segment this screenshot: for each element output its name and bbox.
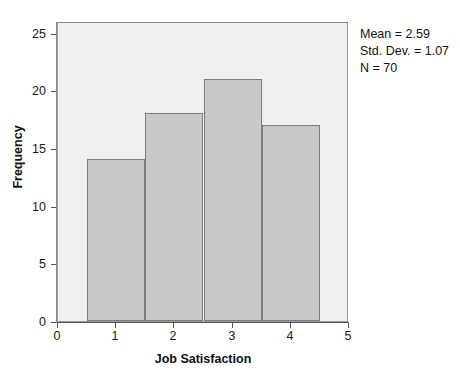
histogram-bar <box>262 125 320 321</box>
x-axis-tick <box>348 323 349 328</box>
x-axis-tick-label: 5 <box>333 330 363 343</box>
statistics-annotation: Mean = 2.59 Std. Dev. = 1.07 N = 70 <box>360 26 449 77</box>
histogram-bar <box>145 113 203 321</box>
histogram-figure: 0510152025 012345 Job Satisfaction Frequ… <box>0 0 460 379</box>
x-axis-tick <box>290 323 291 328</box>
x-axis-tick-label: 3 <box>217 330 247 343</box>
y-axis-tick-label: 0 <box>6 316 46 329</box>
x-axis-tick <box>173 323 174 328</box>
x-axis-tick <box>232 323 233 328</box>
y-axis-tick-label: 25 <box>6 28 46 41</box>
x-axis-tick <box>115 323 116 328</box>
histogram-bar <box>87 159 145 321</box>
stat-std-dev: Std. Dev. = 1.07 <box>360 43 449 60</box>
y-axis-tick-label: 20 <box>6 85 46 98</box>
x-axis-line <box>57 322 349 323</box>
stat-n: N = 70 <box>360 60 449 77</box>
y-axis-line <box>56 22 57 323</box>
y-axis-title: Frequency <box>11 107 25 207</box>
x-axis-tick-label: 2 <box>158 330 188 343</box>
y-axis-tick <box>51 149 56 150</box>
stat-mean: Mean = 2.59 <box>360 26 449 43</box>
x-axis-tick-label: 1 <box>100 330 130 343</box>
y-axis-tick <box>51 34 56 35</box>
y-axis-tick <box>51 264 56 265</box>
bars-layer <box>58 23 347 321</box>
y-axis-tick-label: 5 <box>6 258 46 271</box>
y-axis-tick <box>51 322 56 323</box>
histogram-bar <box>204 79 262 321</box>
x-axis-tick-label: 0 <box>42 330 72 343</box>
x-axis-tick-label: 4 <box>275 330 305 343</box>
x-axis-tick <box>57 323 58 328</box>
x-axis-title: Job Satisfaction <box>57 352 349 366</box>
y-axis-tick <box>51 91 56 92</box>
y-axis-tick <box>51 207 56 208</box>
plot-area <box>57 22 348 322</box>
